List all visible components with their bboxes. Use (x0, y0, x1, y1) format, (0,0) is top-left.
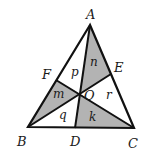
label-c: C (128, 136, 138, 150)
label-region-q: q (59, 108, 67, 122)
triangle-diagram: A B C D E F O p n m r q k (0, 0, 147, 150)
label-region-p: p (71, 65, 79, 79)
label-region-k: k (89, 110, 96, 124)
label-o: O (84, 88, 95, 103)
label-a: A (85, 7, 95, 22)
label-region-r: r (106, 88, 113, 102)
label-region-n: n (90, 55, 98, 69)
label-f: F (41, 67, 52, 82)
label-b: B (16, 134, 27, 149)
label-e: E (113, 60, 124, 75)
label-region-m: m (53, 87, 64, 101)
label-d: D (69, 134, 81, 149)
